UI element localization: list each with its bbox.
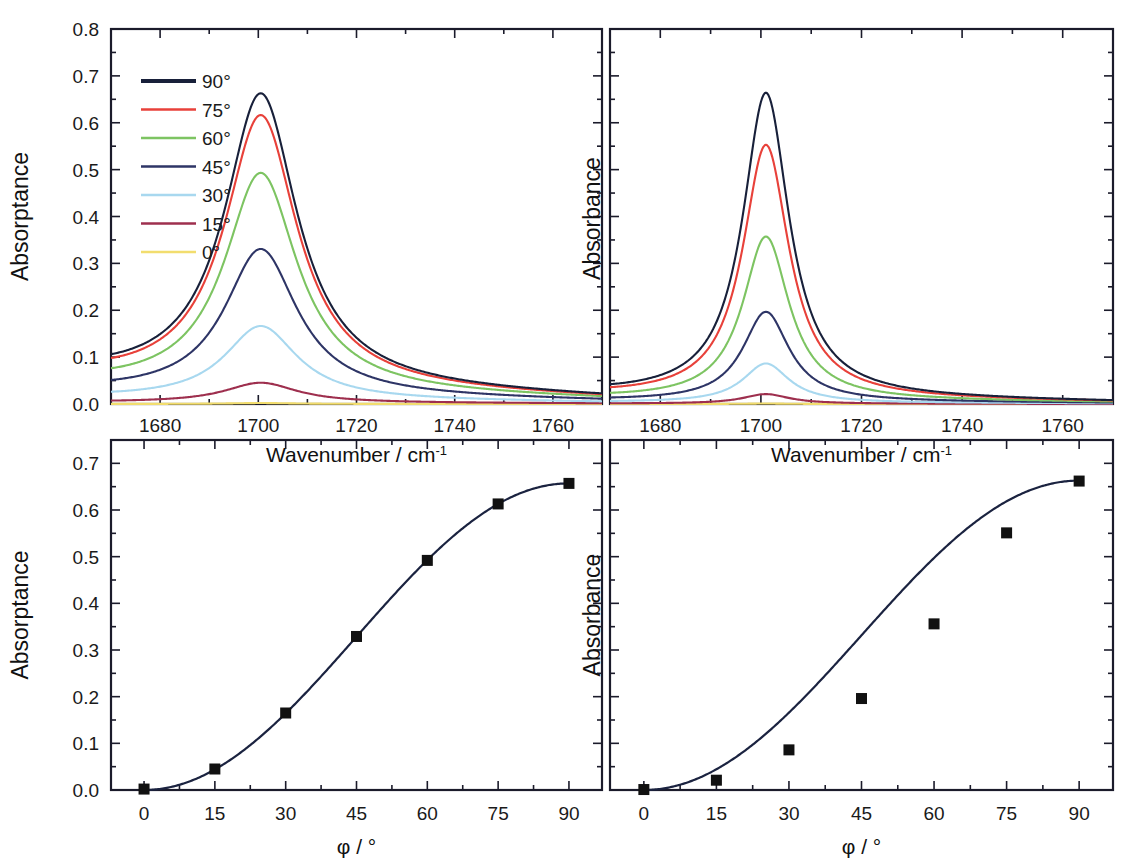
x-tick-label: 30 [275,803,296,824]
data-point-marker [422,555,433,566]
data-point-marker [783,744,794,755]
data-point-marker [351,631,362,642]
data-point-marker [209,764,220,775]
y-tick-label: 0.5 [73,547,99,568]
x-tick-label: 75 [488,803,509,824]
x-tick-label: 1720 [335,415,377,436]
x-tick-label: 1700 [237,415,279,436]
x-tick-label: 0 [639,803,650,824]
data-point-marker [638,784,649,795]
y-tick-label: 0.6 [73,500,99,521]
y-tick-label: 0.2 [73,300,99,321]
legend: 90°75°60°45°30°15°0° [141,71,231,263]
x-tick-label: 75 [996,803,1017,824]
y-tick-label: 0.0 [73,394,99,415]
legend-label-90deg: 90° [202,71,231,92]
spectrum-curve-45deg [610,312,1113,403]
y-axis-title: Absorptance [7,550,33,679]
panel-frame [111,29,602,404]
x-tick-label: 1700 [740,415,782,436]
y-tick-label: 0.7 [73,66,99,87]
panel-frame [610,440,1113,790]
y-tick-label: 0.2 [73,687,99,708]
data-point-marker [280,708,291,719]
x-tick-label: 90 [1069,803,1090,824]
y-tick-label: 0.5 [73,160,99,181]
x-tick-label: 1680 [639,415,681,436]
x-tick-label: 15 [706,803,727,824]
x-tick-label: 30 [778,803,799,824]
y-axis-title: Absorptance [7,152,33,281]
x-tick-label: 15 [204,803,225,824]
spectrum-curve-60deg [610,237,1113,402]
y-tick-label: 0.0 [73,780,99,801]
spectrum-curve-60deg [111,173,602,396]
x-tick-label: 1760 [532,415,574,436]
spectrum-curve-75deg [111,115,602,394]
data-point-marker [563,478,574,489]
panel-b: Absorbance16801700172017401760Wavenumber… [579,29,1113,466]
x-axis-title: φ / ° [842,835,882,858]
panel-frame [610,29,1113,404]
data-point-marker [139,784,150,795]
data-point-marker [1074,476,1085,487]
data-point-marker [711,775,722,786]
legend-label-75deg: 75° [202,100,231,121]
panel-frame [111,440,602,790]
x-tick-label: 90 [558,803,579,824]
x-axis-title: φ / ° [337,835,377,858]
y-tick-label: 0.7 [73,453,99,474]
y-tick-label: 0.3 [73,640,99,661]
y-tick-label: 0.1 [73,733,99,754]
four-panel-spectra-figure: 0.00.10.20.30.40.50.60.70.8Absorptance16… [0,0,1135,861]
x-tick-label: 60 [417,803,438,824]
legend-label-45deg: 45° [202,157,231,178]
spectrum-curve-45deg [111,249,602,399]
data-point-marker [856,693,867,704]
data-point-marker [1001,527,1012,538]
y-tick-label: 0.4 [73,593,100,614]
legend-label-15deg: 15° [202,214,231,235]
figure-canvas: 0.00.10.20.30.40.50.60.70.8Absorptance16… [0,0,1135,861]
x-tick-label: 1740 [941,415,983,436]
x-tick-label: 1740 [434,415,476,436]
data-point-marker [929,618,940,629]
y-tick-label: 0.8 [73,19,99,40]
data-point-marker [493,498,504,509]
panel-a: 0.00.10.20.30.40.50.60.70.8Absorptance16… [7,19,602,466]
y-tick-label: 0.4 [73,207,100,228]
panel-d: Absorbance0153045607590φ / ° [579,440,1113,858]
y-axis-title: Absorbance [579,554,605,677]
spectrum-curve-90deg [610,93,1113,400]
legend-label-30deg: 30° [202,185,231,206]
x-tick-label: 45 [346,803,367,824]
x-tick-label: 1720 [840,415,882,436]
y-tick-label: 0.1 [73,347,99,368]
y-tick-label: 0.3 [73,253,99,274]
fit-curve [644,481,1079,790]
legend-label-0deg: 0° [202,242,220,263]
x-tick-label: 60 [923,803,944,824]
legend-label-60deg: 60° [202,128,231,149]
x-tick-label: 0 [139,803,150,824]
panel-c: 0.00.10.20.30.40.50.60.7Absorptance01530… [7,440,602,858]
x-tick-label: 1760 [1042,415,1084,436]
y-axis-title: Absorbance [579,157,605,280]
x-tick-label: 1680 [139,415,181,436]
y-tick-label: 0.6 [73,113,99,134]
x-tick-label: 45 [851,803,872,824]
